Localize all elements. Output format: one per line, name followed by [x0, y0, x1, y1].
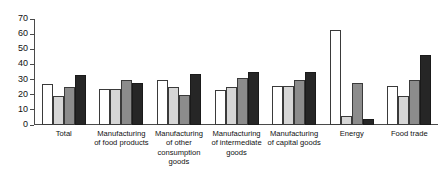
bar[interactable] [409, 80, 420, 125]
x-axis-label: Manufacturing of capital goods [265, 129, 323, 166]
x-axis-label: Energy [323, 129, 381, 166]
bar-chart: 010203040506070 TotalManufacturing of fo… [0, 0, 443, 191]
x-axis-label: Manufacturing of food products [93, 129, 151, 166]
bar-group [93, 19, 151, 125]
y-axis-tick-mark [30, 34, 34, 35]
y-axis-tick-mark [30, 64, 34, 65]
x-axis-label: Manufacturing of other consumption goods [150, 129, 208, 166]
bar-group [323, 19, 381, 125]
y-axis-tick-label: 70 [18, 13, 28, 23]
bar[interactable] [398, 96, 409, 125]
bar[interactable] [248, 72, 259, 125]
y-axis-tick-label: 20 [18, 89, 28, 99]
bar[interactable] [42, 84, 53, 125]
bar[interactable] [99, 89, 110, 125]
bar[interactable] [226, 87, 237, 125]
y-axis-tick-label: 30 [18, 74, 28, 84]
bar-group [208, 19, 266, 125]
bar[interactable] [64, 87, 75, 125]
bar[interactable] [75, 75, 86, 125]
bar[interactable] [53, 96, 64, 125]
bar[interactable] [352, 83, 363, 125]
y-axis-tick-label: 10 [18, 104, 28, 114]
bar[interactable] [237, 78, 248, 125]
bar[interactable] [283, 86, 294, 125]
bar-group [265, 19, 323, 125]
bar[interactable] [110, 89, 121, 125]
bar-group [380, 19, 438, 125]
y-axis-tick-mark [30, 79, 34, 80]
bar[interactable] [305, 72, 316, 125]
y-axis-tick-label: 0 [23, 119, 28, 129]
x-axis-label: Total [35, 129, 93, 166]
y-axis-tick-label: 60 [18, 28, 28, 38]
bar-group [150, 19, 208, 125]
y-axis-tick-mark [30, 49, 34, 50]
bar[interactable] [168, 87, 179, 125]
x-axis-labels: TotalManufacturing of food productsManuf… [35, 129, 438, 166]
bar[interactable] [132, 83, 143, 125]
bar[interactable] [215, 90, 226, 125]
bar[interactable] [330, 30, 341, 125]
y-axis-tick-mark [30, 19, 34, 20]
y-axis-tick-label: 40 [18, 58, 28, 68]
x-axis-label: Manufacturing of intermediate goods [208, 129, 266, 166]
bar[interactable] [157, 80, 168, 125]
bar-group [35, 19, 93, 125]
bar[interactable] [387, 86, 398, 125]
bar[interactable] [121, 80, 132, 125]
bar[interactable] [190, 74, 201, 125]
bar[interactable] [420, 55, 431, 125]
bar[interactable] [341, 116, 352, 125]
bar-groups [35, 19, 438, 125]
y-axis-tick-mark [30, 125, 34, 126]
x-axis-label: Food trade [380, 129, 438, 166]
y-axis-tick-label: 50 [18, 43, 28, 53]
bar[interactable] [179, 95, 190, 125]
y-axis-tick-mark [30, 94, 34, 95]
bar[interactable] [363, 119, 374, 125]
bar[interactable] [272, 86, 283, 125]
y-axis-tick-mark [30, 109, 34, 110]
bar[interactable] [294, 80, 305, 125]
